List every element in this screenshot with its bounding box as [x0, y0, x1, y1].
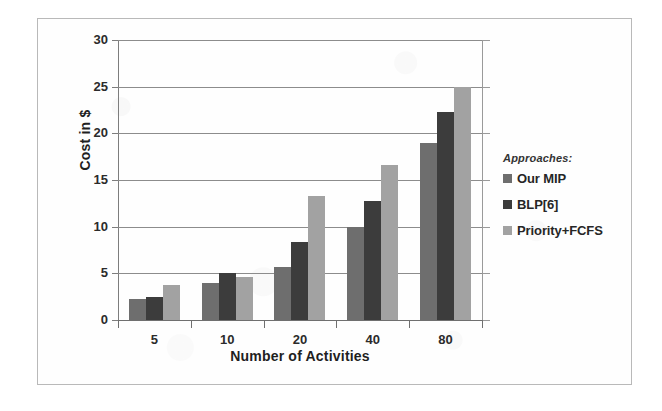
y-tick-mark-15: [112, 180, 118, 181]
y-tick-label-5: 5: [68, 265, 108, 280]
x-tick-label-40: 40: [333, 332, 413, 347]
y-tick-mark-20: [112, 133, 118, 134]
bar-group-5: [118, 40, 191, 320]
x-tick-label-10: 10: [187, 332, 267, 347]
bar-priority-fcfs-10: [236, 277, 253, 320]
y-tick-mark-right-15: [483, 180, 490, 181]
bar-priority-fcfs-20: [308, 196, 325, 320]
y-tick-mark-right-0: [483, 320, 490, 321]
legend-swatch-icon-0: [503, 174, 512, 183]
legend-label-2: Priority+FCFS: [517, 223, 603, 238]
y-axis-tick-labels: 051015202530: [62, 0, 108, 411]
y-tick-label-20: 20: [68, 125, 108, 140]
y-tick-mark-right-25: [483, 87, 490, 88]
bar-group-20: [264, 40, 337, 320]
legend-label-1: BLP[6]: [517, 197, 558, 212]
plot-area: [118, 40, 482, 320]
y-tick-label-30: 30: [68, 32, 108, 47]
bar-blp-6--5: [146, 297, 163, 320]
y-tick-label-15: 15: [68, 172, 108, 187]
legend-label-0: Our MIP: [517, 171, 566, 186]
x-tick-mark-0: [118, 321, 119, 328]
bar-our-mip-80: [420, 143, 437, 320]
bar-blp-6--80: [437, 112, 454, 320]
bar-our-mip-10: [202, 283, 219, 320]
x-axis-title: Number of Activities: [118, 348, 482, 364]
x-tick-mark-1: [191, 321, 192, 328]
x-tick-label-5: 5: [114, 332, 194, 347]
legend-item-our-mip: Our MIP: [503, 171, 623, 186]
y-tick-label-0: 0: [68, 312, 108, 327]
y-tick-mark-5: [112, 273, 118, 274]
y-tick-mark-0: [112, 320, 118, 321]
y-tick-mark-right-20: [483, 133, 490, 134]
y-tick-label-10: 10: [68, 219, 108, 234]
y-tick-mark-30: [112, 40, 118, 41]
gridline-0: [118, 320, 482, 321]
legend-items: Our MIPBLP[6]Priority+FCFS: [503, 171, 623, 238]
x-tick-mark-5: [482, 321, 483, 328]
bar-group-80: [409, 40, 482, 320]
bar-priority-fcfs-5: [163, 285, 180, 320]
bar-blp-6--20: [291, 242, 308, 320]
y-tick-mark-25: [112, 87, 118, 88]
y-tick-mark-right-10: [483, 227, 490, 228]
legend-title: Approaches:: [503, 152, 623, 164]
legend-item-priority-fcfs: Priority+FCFS: [503, 223, 623, 238]
x-tick-mark-4: [409, 321, 410, 328]
bar-priority-fcfs-40: [381, 165, 398, 320]
bar-our-mip-20: [274, 267, 291, 320]
bar-group-40: [336, 40, 409, 320]
chart-legend: Approaches: Our MIPBLP[6]Priority+FCFS: [503, 152, 623, 249]
legend-swatch-icon-2: [503, 226, 512, 235]
x-tick-mark-2: [264, 321, 265, 328]
y-tick-mark-right-30: [483, 40, 490, 41]
legend-swatch-icon-1: [503, 200, 512, 209]
y-tick-label-25: 25: [68, 79, 108, 94]
bar-priority-fcfs-80: [454, 87, 471, 320]
y-tick-mark-10: [112, 227, 118, 228]
bar-blp-6--10: [219, 273, 236, 320]
y-tick-mark-right-5: [483, 273, 490, 274]
x-tick-mark-3: [336, 321, 337, 328]
bar-group-10: [191, 40, 264, 320]
bar-our-mip-5: [129, 299, 146, 320]
bar-our-mip-40: [347, 227, 364, 320]
x-tick-label-20: 20: [260, 332, 340, 347]
bar-blp-6--40: [364, 201, 381, 320]
legend-item-blp-6-: BLP[6]: [503, 197, 623, 212]
x-tick-label-80: 80: [406, 332, 486, 347]
